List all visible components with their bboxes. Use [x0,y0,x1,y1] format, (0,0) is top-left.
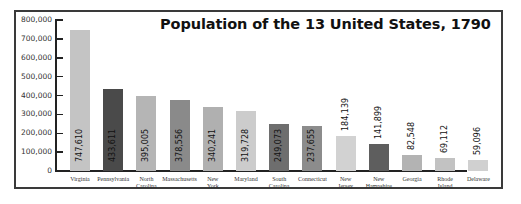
y-tick [55,114,63,116]
y-tick [55,170,63,172]
bar-value-label: 237,655 [307,129,316,162]
y-tick [55,19,63,21]
y-tick [55,133,63,135]
category-line: Hampshire [354,183,404,190]
y-tick [55,76,63,78]
y-tick-label: 700,000 [16,34,52,43]
bar [369,144,389,171]
bar-value-label: 319,728 [241,129,250,162]
bar-value-label: 395,005 [141,129,150,162]
bar [435,158,455,171]
bar-value-label: 433,611 [108,129,117,162]
bar-value-label: 184,139 [341,98,350,131]
bar-value-label: 141,899 [374,106,383,139]
y-tick [55,95,63,97]
y-tick-label: 300,000 [16,109,52,118]
bar-value-label: 249,073 [274,129,283,162]
x-category-label: Delaware [453,176,503,183]
bar [468,160,488,171]
y-tick [55,38,63,40]
y-tick [55,151,63,153]
category-line: York [188,183,238,190]
bar-value-label: 747,610 [75,129,84,162]
y-tick-label: 400,000 [16,91,52,100]
y-tick [55,57,63,59]
y-tick-label: 0 [16,166,52,175]
category-line: Island [420,183,470,190]
bar [402,155,422,171]
category-line: Carolina [121,183,171,190]
bar-value-label: 378,556 [175,129,184,162]
y-tick-label: 500,000 [16,72,52,81]
chart-title: Population of the 13 United States, 1790 [160,16,491,32]
category-line: Delaware [453,176,503,183]
bar-value-label: 340,241 [208,129,217,162]
bar-value-label: 69,112 [440,125,449,153]
category-line: Carolina [254,183,304,190]
y-tick-label: 600,000 [16,53,52,62]
bar-value-label: 82,548 [407,122,416,150]
y-tick-label: 800,000 [16,15,52,24]
y-tick-label: 200,000 [16,128,52,137]
bar-value-label: 59,096 [473,127,482,155]
y-tick-label: 100,000 [16,147,52,156]
bar [336,136,356,171]
